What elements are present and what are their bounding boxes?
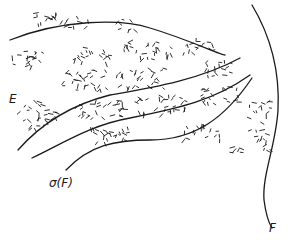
curve-F-vertical (252, 5, 278, 228)
diagram-canvas (0, 0, 294, 240)
curve-4-sigmaF (66, 78, 252, 170)
curve-2 (18, 58, 240, 150)
label-sigma-F: σ(F) (49, 177, 73, 189)
stipple-group (12, 13, 272, 153)
label-F: F (269, 222, 276, 234)
diagram-figure: E σ(F) F (0, 0, 294, 240)
curve-1-top (10, 22, 225, 55)
label-E: E (9, 93, 17, 105)
